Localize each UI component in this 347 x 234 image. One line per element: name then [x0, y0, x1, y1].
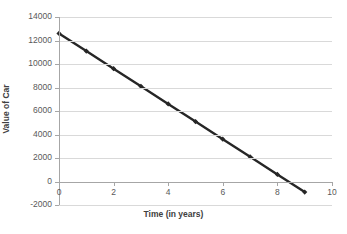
x-tick — [332, 182, 333, 186]
x-tick-label: 4 — [156, 188, 180, 197]
y-axis-title: Value of Car — [1, 59, 11, 159]
x-axis-title: Time (in years) — [0, 209, 347, 219]
x-tick — [277, 182, 278, 186]
y-tick-label: 12000 — [6, 36, 52, 45]
y-tick — [55, 205, 59, 206]
y-tick-label: 8000 — [6, 83, 52, 92]
y-tick-label: 0 — [6, 177, 52, 186]
x-tick-label: 6 — [211, 188, 235, 197]
x-tick-label: 2 — [102, 188, 126, 197]
x-tick — [114, 182, 115, 186]
gridline-y — [59, 111, 332, 112]
plot-area: 14000120001000080006000400020000-2000024… — [59, 17, 332, 205]
gridline-y — [59, 17, 332, 18]
x-tick-label: 10 — [320, 188, 344, 197]
y-tick-label: 10000 — [6, 59, 52, 68]
x-tick — [59, 182, 60, 186]
gridline-y — [59, 64, 332, 65]
x-tick — [223, 182, 224, 186]
x-tick-label: 0 — [47, 188, 71, 197]
y-tick-label: -2000 — [6, 200, 52, 209]
y-tick-label: 4000 — [6, 130, 52, 139]
line-chart: 14000120001000080006000400020000-2000024… — [0, 0, 347, 234]
x-axis-line — [59, 182, 332, 183]
gridline-y — [59, 88, 332, 89]
y-tick-label: 6000 — [6, 106, 52, 115]
x-tick — [168, 182, 169, 186]
y-tick-label: 14000 — [6, 12, 52, 21]
x-tick-label: 8 — [265, 188, 289, 197]
gridline-y — [59, 135, 332, 136]
gridline-y — [59, 205, 332, 206]
gridline-y — [59, 41, 332, 42]
y-axis-line — [59, 17, 60, 205]
gridline-y — [59, 158, 332, 159]
y-tick-label: 2000 — [6, 153, 52, 162]
